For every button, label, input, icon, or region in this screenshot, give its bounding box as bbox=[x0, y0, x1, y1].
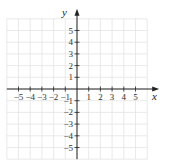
y-axis-arrow-icon bbox=[75, 9, 80, 16]
y-tick-label: −1 bbox=[63, 96, 73, 106]
y-tick-label: 3 bbox=[69, 49, 74, 59]
y-axis-label: y bbox=[61, 6, 67, 18]
x-tick-label: −3 bbox=[37, 92, 47, 102]
x-tick-label: −2 bbox=[49, 92, 59, 102]
y-tick-label: −4 bbox=[63, 131, 73, 141]
y-tick-label: 2 bbox=[69, 61, 74, 71]
coordinate-plane: −5−4−3−2−11234554321−1−2−3−4−5 x y bbox=[0, 0, 175, 166]
y-tick-label: −5 bbox=[63, 143, 73, 153]
x-axis-label: x bbox=[151, 90, 157, 102]
x-tick-label: 4 bbox=[122, 92, 127, 102]
x-tick-label: 1 bbox=[86, 92, 91, 102]
y-tick-label: 5 bbox=[69, 26, 74, 36]
x-tick-label: 5 bbox=[133, 92, 138, 102]
y-tick-label: 4 bbox=[69, 37, 74, 47]
y-tick-label: −2 bbox=[63, 107, 73, 117]
x-tick-label: 3 bbox=[110, 92, 115, 102]
axes bbox=[7, 9, 159, 159]
y-tick-label: 1 bbox=[69, 72, 74, 82]
x-tick-label: −4 bbox=[25, 92, 35, 102]
x-tick-label: 2 bbox=[98, 92, 103, 102]
x-tick-label: −5 bbox=[14, 92, 24, 102]
y-tick-label: −3 bbox=[63, 119, 73, 129]
